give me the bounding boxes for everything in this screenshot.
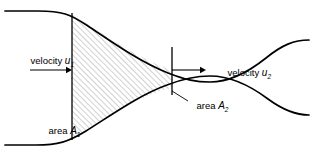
- label-area-inlet-word: area: [48, 125, 68, 136]
- label-velocity-inlet: velocity u1: [12, 55, 87, 69]
- label-velocity-inlet-word: velocity: [30, 55, 62, 66]
- control-volume-hatched-region: [72, 14, 172, 139]
- label-velocity-inlet-subscript: 1: [70, 61, 74, 68]
- label-velocity-outlet-word: velocity: [227, 67, 259, 78]
- label-area-inlet-subscript: 1: [77, 131, 81, 138]
- label-velocity-outlet-subscript: 2: [266, 73, 271, 80]
- label-area-inlet: area A1: [30, 125, 94, 139]
- label-area-outlet: area A2: [178, 100, 242, 114]
- outlet-velocity-arrowhead: [200, 67, 206, 73]
- venturi-pipe-diagram: velocity u1 velocity u2 area A1 area A2: [0, 0, 314, 153]
- diagram-canvas: velocity u1 velocity u2 area A1 area A2: [0, 0, 314, 153]
- label-velocity-outlet: velocity u2: [209, 67, 284, 81]
- label-area-outlet-subscript: 2: [224, 106, 229, 113]
- inlet-velocity-arrowhead: [66, 67, 72, 73]
- label-area-outlet-word: area: [196, 100, 216, 111]
